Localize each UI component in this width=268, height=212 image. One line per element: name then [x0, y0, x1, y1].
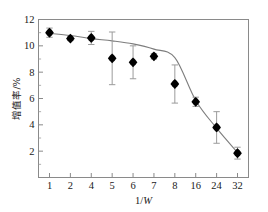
y-tick-label-4: 4 — [29, 119, 35, 130]
x-tick-label-6: 6 — [130, 180, 135, 191]
x-axis-ticks: 1245678162432 — [47, 173, 243, 191]
data-markers — [45, 28, 242, 158]
y-tick-label-12: 12 — [24, 14, 35, 25]
y-tick-label-8: 8 — [29, 67, 34, 78]
x-axis-label: 1/W — [135, 195, 153, 206]
y-tick-label-10: 10 — [24, 40, 35, 51]
data-marker-4 — [87, 33, 96, 43]
x-tick-label-32: 32 — [232, 180, 243, 191]
data-marker-8 — [171, 79, 180, 89]
y-tick-label-2: 2 — [29, 146, 34, 157]
chart-canvas: 24681012 1245678162432 增值率/% 1/W — [0, 0, 268, 212]
y-axis-major-ticks: 24681012 — [24, 14, 43, 177]
y-axis-label-text: 增值率/% — [11, 77, 22, 119]
x-axis-label-variable: W — [143, 195, 153, 206]
x-tick-label-24: 24 — [211, 180, 222, 191]
fit-curve-path — [50, 33, 238, 152]
y-tick-label-6: 6 — [29, 93, 34, 104]
x-tick-label-8: 8 — [172, 180, 177, 191]
x-tick-label-4: 4 — [89, 180, 95, 191]
plot-frame — [39, 20, 249, 178]
fit-curve — [50, 33, 238, 152]
x-tick-label-7: 7 — [151, 180, 156, 191]
x-axis-label-prefix: 1/ — [135, 195, 143, 206]
error-bars — [46, 28, 240, 159]
plot-frame-rect — [39, 20, 249, 178]
data-marker-1 — [45, 28, 54, 38]
x-tick-label-1: 1 — [47, 180, 52, 191]
data-marker-7 — [150, 51, 159, 61]
x-tick-label-16: 16 — [190, 180, 201, 191]
data-marker-5 — [108, 53, 117, 63]
data-marker-6 — [129, 57, 138, 67]
chart-figure: 24681012 1245678162432 增值率/% 1/W — [0, 0, 268, 212]
x-axis-label-text: 1/W — [135, 195, 153, 206]
x-tick-label-2: 2 — [68, 180, 73, 191]
x-tick-label-5: 5 — [110, 180, 115, 191]
y-axis-label: 增值率/% — [11, 77, 22, 119]
